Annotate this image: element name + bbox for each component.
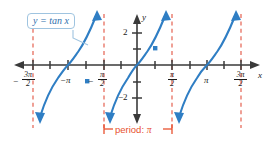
xlabel-3pi-over-2-den: 2 <box>232 80 249 88</box>
xlabel-neg-3pi-over-2-den: 2 <box>20 80 36 88</box>
xlabel-neg-pi-over-2-num: π <box>95 71 109 79</box>
xlabel-pi: π <box>204 76 209 85</box>
tangent-graph-figure: y = tan x − 3π 2 −π − π 2 π 2 π 3π 2 x y… <box>0 0 274 142</box>
y-axis-arrow-down <box>133 114 141 124</box>
xlabel-pi-over-2-den: 2 <box>165 80 179 88</box>
y-axis-arrow-up <box>133 14 141 24</box>
tangent-branch-left <box>40 16 96 117</box>
x-axis-arrow-right <box>250 61 260 69</box>
xlabel-pi-over-2-num: π <box>165 71 179 79</box>
marked-point-pos <box>153 46 157 50</box>
xlabel-neg-pi: −π <box>60 76 71 85</box>
y-axis-label: y <box>142 13 146 22</box>
xlabel-neg-pi-over-2: π 2 <box>95 71 109 88</box>
xlabel-3pi-over-2-num: 3π <box>232 71 249 79</box>
callout-y-equals-tan-x: y = tan x <box>27 13 75 29</box>
ylabel-neg-2: −2 <box>118 93 128 102</box>
period-label-text: period: <box>115 124 147 135</box>
xlabel-3pi-over-2: 3π 2 <box>232 71 249 88</box>
period-label: period: π <box>115 124 151 135</box>
x-axis-label: x <box>258 71 262 80</box>
period-label-value: π <box>147 125 152 135</box>
xlabel-pi-over-2: π 2 <box>165 71 179 88</box>
ylabel-2: 2 <box>123 28 128 37</box>
xlabel-neg3pi2-minus: − <box>13 76 18 86</box>
xlabel-neg-3pi-over-2-num: 3π <box>20 71 36 79</box>
xlabel-negpi2-minus: − <box>88 76 93 86</box>
xlabel-neg-3pi-over-2: 3π 2 <box>20 71 36 88</box>
x-axis-arrow-left <box>14 61 24 69</box>
xlabel-neg-pi-over-2-den: 2 <box>95 80 109 88</box>
